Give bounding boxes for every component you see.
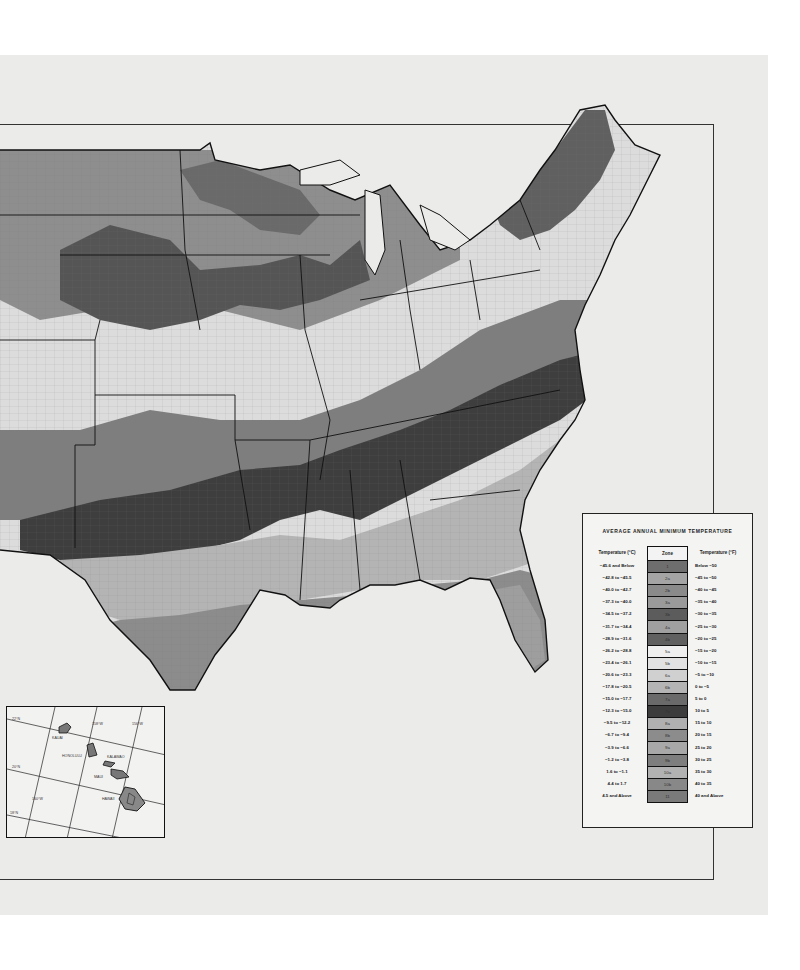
legend-fahrenheit-range: 20 to 15	[691, 732, 753, 737]
legend-fahrenheit-range: 10 to 5	[691, 708, 753, 713]
lake-superior	[300, 160, 360, 185]
legend-celsius-range: −3.9 to −6.6	[588, 745, 646, 750]
maui-icon	[111, 769, 129, 779]
legend-zone-swatch: 3a	[648, 597, 687, 608]
legend-celsius-range: −17.8 to −20.5	[588, 684, 646, 689]
legend-header-celsius: Temperature (°C)	[588, 550, 646, 555]
legend-header-zone: Zone	[648, 547, 687, 560]
legend-zone-swatch: 8a	[648, 718, 687, 729]
inset-label-kauai: KAUAI	[52, 736, 63, 740]
legend-fahrenheit-range: −45 to −50	[691, 575, 753, 580]
lat-label: 20°N	[12, 765, 20, 769]
inset-label-maui: MAUI	[94, 775, 103, 779]
legend-fahrenheit-range: 30 to 25	[691, 757, 753, 762]
legend-fahrenheit-range: 5 to 0	[691, 696, 753, 701]
legend-zone-swatch: 7b	[648, 706, 687, 717]
legend-zone-swatch: 3b	[648, 609, 687, 620]
legend-celsius-range: −15.0 to −17.7	[588, 696, 646, 701]
legend-celsius-range: −34.5 to −37.2	[588, 611, 646, 616]
legend-zone-swatch: 9b	[648, 755, 687, 766]
kauai-icon	[59, 723, 71, 733]
legend-celsius-range: −26.2 to −28.8	[588, 648, 646, 653]
legend-celsius-range: −6.7 to −9.4	[588, 732, 646, 737]
legend-celsius-range: −20.6 to −23.3	[588, 672, 646, 677]
legend-fahrenheit-range: −35 to −40	[691, 599, 753, 604]
hawaii-inset: KAUAI HONOLULU KALAWAO MAUI HAWAII 22°N …	[6, 706, 165, 838]
legend-zone-swatch: 8b	[648, 730, 687, 741]
legend-zone-swatch: 4a	[648, 621, 687, 632]
legend-zone-swatch: 4b	[648, 634, 687, 645]
legend-celsius-range: −37.3 to −40.0	[588, 599, 646, 604]
legend-zone-swatch: 6a	[648, 670, 687, 681]
legend-celsius-range: −1.2 to −3.8	[588, 757, 646, 762]
legend-header-fahrenheit: Temperature (°F)	[688, 550, 748, 555]
inset-label-hawaii: HAWAII	[102, 797, 115, 801]
legend-fahrenheit-range: −40 to −45	[691, 587, 753, 592]
inset-graticule	[7, 707, 165, 838]
legend-fahrenheit-range: 15 to 10	[691, 720, 753, 725]
legend-fahrenheit-range: 35 to 30	[691, 769, 753, 774]
legend-zone-swatch: 5b	[648, 658, 687, 669]
legend-celsius-range: −9.5 to −12.2	[588, 720, 646, 725]
legend-fahrenheit-range: −30 to −35	[691, 611, 753, 616]
legend-fahrenheit-range: 0 to −5	[691, 684, 753, 689]
legend-celsius-range: −40.0 to −42.7	[588, 587, 646, 592]
legend-zone-swatch: 1	[648, 561, 687, 572]
legend-fahrenheit-range: −20 to −25	[691, 636, 753, 641]
legend-fahrenheit-range: 25 to 20	[691, 745, 753, 750]
legend-zone-column: Zone 12a2b3a3b4a4b5a5b6a6b7a7b8a8b9a9b10…	[647, 546, 688, 803]
legend-title: AVERAGE ANNUAL MINIMUM TEMPERATURE	[583, 528, 752, 534]
inset-label-honolulu: HONOLULU	[62, 754, 82, 758]
legend-fahrenheit-range: Below −50	[691, 563, 753, 568]
legend-fahrenheit-range: 40 to 35	[691, 781, 753, 786]
lon-label: 158°W	[92, 722, 103, 726]
lon-label: 160°W	[32, 797, 43, 801]
legend-celsius-range: −42.8 to −45.5	[588, 575, 646, 580]
legend-zone-swatch: 9a	[648, 742, 687, 753]
legend-zone-swatch: 7a	[648, 694, 687, 705]
legend: AVERAGE ANNUAL MINIMUM TEMPERATURE Tempe…	[582, 513, 753, 828]
legend-fahrenheit-range: −25 to −30	[691, 624, 753, 629]
legend-zone-swatch: 6b	[648, 682, 687, 693]
legend-fahrenheit-range: −15 to −20	[691, 648, 753, 653]
oahu-icon	[87, 743, 97, 757]
legend-zone-swatch: 10a	[648, 767, 687, 778]
legend-zone-swatch: 11	[648, 791, 687, 802]
hawaii-island-icon	[119, 787, 145, 811]
molokai-icon	[103, 761, 115, 767]
legend-celsius-range: −28.9 to −31.6	[588, 636, 646, 641]
lon-label: 156°W	[132, 722, 143, 726]
legend-celsius-range: −12.3 to −15.0	[588, 708, 646, 713]
legend-fahrenheit-range: 40 and Above	[691, 793, 753, 798]
legend-celsius-range: −31.7 to −34.4	[588, 624, 646, 629]
legend-celsius-range: 4.4 to 1.7	[588, 781, 646, 786]
legend-celsius-range: 1.6 to −1.1	[588, 769, 646, 774]
legend-zone-swatch: 2a	[648, 573, 687, 584]
legend-celsius-range: 4.5 and Above	[588, 793, 646, 798]
lat-label: 18°N	[10, 811, 18, 815]
legend-zone-swatch: 2b	[648, 585, 687, 596]
inset-label-kalawao: KALAWAO	[107, 755, 125, 759]
lat-label: 22°N	[12, 717, 20, 721]
legend-celsius-range: −23.4 to −26.1	[588, 660, 646, 665]
legend-zone-swatch: 10b	[648, 779, 687, 790]
legend-zone-swatch: 5a	[648, 646, 687, 657]
legend-celsius-range: −45.6 and Below	[588, 563, 646, 568]
legend-fahrenheit-range: −5 to −10	[691, 672, 753, 677]
legend-fahrenheit-range: −10 to −15	[691, 660, 753, 665]
